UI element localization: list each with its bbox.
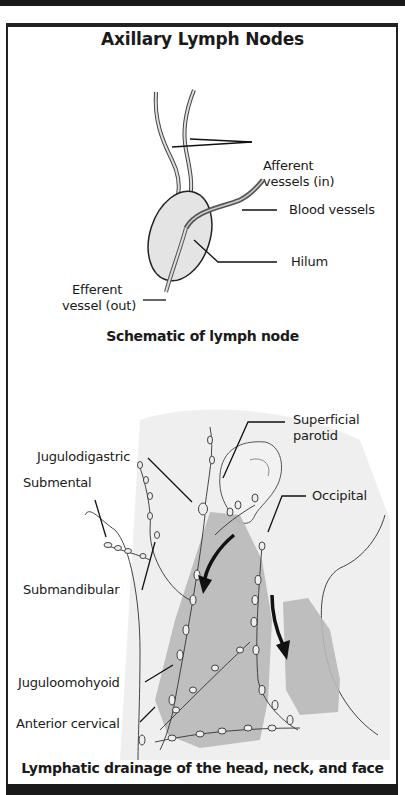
label-anterior-cervical: Anterior cervical xyxy=(16,716,120,732)
label-juguloomohyoid: Juguloomohyoid xyxy=(18,675,120,691)
label-submental: Submental xyxy=(23,475,92,491)
label-superficial-parotid-line1: Superficial xyxy=(293,412,359,428)
label-jugulodigastric: Jugulodigastric xyxy=(37,449,130,465)
label-occipital: Occipital xyxy=(312,488,367,504)
drainage-caption: Lymphatic drainage of the head, neck, an… xyxy=(0,760,405,776)
label-submandibular: Submandibular xyxy=(23,582,119,598)
label-superficial-parotid-line2: parotid xyxy=(293,428,338,444)
